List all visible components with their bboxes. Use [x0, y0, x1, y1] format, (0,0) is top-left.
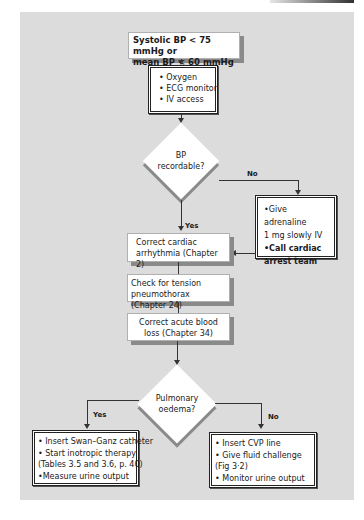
- decision-pulmonary-oedema: Pulmonary oedema?: [137, 364, 217, 444]
- connector: [178, 302, 179, 313]
- adrenaline-line-4: arrest team: [264, 255, 328, 268]
- no-outcome-item: • Insert CVP line: [215, 438, 311, 450]
- connector-yes: [87, 400, 139, 401]
- connector: [87, 400, 88, 427]
- decision-text: BP recordable?: [142, 150, 220, 172]
- decision-line-2: recordable?: [142, 161, 220, 172]
- connector: [178, 262, 179, 274]
- no-label: No: [268, 413, 279, 421]
- connector-no: [215, 403, 262, 404]
- connector: [234, 253, 256, 254]
- step1-line-1: Correct cardiac: [136, 237, 221, 248]
- step-correct-blood-loss: Correct acute blood loss (Chapter 34): [127, 313, 230, 341]
- start-condition-box: Systolic BP < 75 mmHg or mean BP < 60 mm…: [128, 32, 240, 59]
- initial-action-item: • ECG monitor: [159, 83, 207, 94]
- decision-line-1: Pulmonary: [137, 393, 217, 404]
- start-line-1: Systolic BP < 75 mmHg or: [133, 35, 235, 57]
- adrenaline-line-1: •Give adrenaline: [264, 203, 328, 229]
- yes-label: Yes: [93, 411, 106, 419]
- connector-yes: [181, 200, 182, 228]
- step-correct-arrhythmia: Correct cardiac arrhythmia (Chapter 2): [127, 233, 230, 262]
- no-outcome-item: (Fig 3·2): [215, 461, 311, 473]
- adrenaline-box: •Give adrenaline 1 mg slowly IV •Call ca…: [255, 195, 337, 259]
- arrow-down-icon: [178, 226, 184, 231]
- no-label: No: [247, 170, 258, 178]
- step2-line-1: Check for tension: [131, 278, 226, 289]
- yes-outcome-item: • Start inotropic therapy: [38, 448, 133, 460]
- page-edge-bar: [270, 0, 354, 3]
- yes-label: Yes: [185, 222, 198, 230]
- decision-bp-recordable: BP recordable?: [142, 122, 220, 200]
- yes-outcome-item: (Tables 3.5 and 3.6, p. 40): [38, 459, 133, 471]
- no-outcome-item: • Give fluid challenge: [215, 450, 311, 462]
- initial-action-item: • IV access: [159, 94, 207, 105]
- initial-actions-box: • Oxygen • ECG monitor • IV access: [148, 65, 218, 114]
- adrenaline-line-2: 1 mg slowly IV: [264, 229, 328, 242]
- decision-line-2: oedema?: [137, 404, 217, 415]
- adrenaline-line-3: •Call cardiac: [264, 242, 328, 255]
- step3-line-2: loss (Chapter 34): [131, 328, 226, 339]
- yes-outcome-item: •Measure urine output: [38, 471, 133, 483]
- step3-line-1: Correct acute blood: [131, 317, 226, 328]
- decision-text: Pulmonary oedema?: [137, 393, 217, 415]
- no-outcome-box: • Insert CVP line • Give fluid challenge…: [209, 432, 317, 488]
- arrow-down-icon: [258, 424, 264, 429]
- yes-outcome-item: • Insert Swan–Ganz catheter: [38, 436, 133, 448]
- step-check-pneumothorax: Check for tension pneumothorax (Chapter …: [127, 274, 230, 302]
- yes-outcome-box: • Insert Swan–Ganz catheter • Start inot…: [32, 430, 139, 486]
- connector-no: [219, 180, 299, 181]
- no-outcome-item: • Monitor urine output: [215, 473, 311, 485]
- arrow-down-icon: [84, 424, 90, 429]
- initial-action-item: • Oxygen: [159, 72, 207, 83]
- arrow-left-icon: [231, 250, 236, 256]
- decision-line-1: BP: [142, 150, 220, 161]
